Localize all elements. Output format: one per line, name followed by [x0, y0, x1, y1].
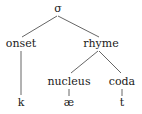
edge-rhyme-coda — [99, 51, 121, 73]
node-nucleus: nucleus — [47, 75, 90, 88]
node-rhyme: rhyme — [83, 37, 119, 50]
edge-root-rhyme — [58, 16, 99, 37]
node-coda: coda — [109, 75, 136, 88]
node-syllable-root: σ — [54, 2, 62, 15]
edge-root-onset — [22, 16, 57, 37]
syllable-tree-diagram: σ onset rhyme nucleus coda k æ t — [0, 0, 142, 114]
leaf-k: k — [18, 96, 25, 109]
node-onset: onset — [6, 37, 37, 50]
leaf-t: t — [120, 96, 125, 109]
leaf-ae: æ — [64, 96, 74, 109]
edge-rhyme-nucleus — [71, 51, 98, 73]
